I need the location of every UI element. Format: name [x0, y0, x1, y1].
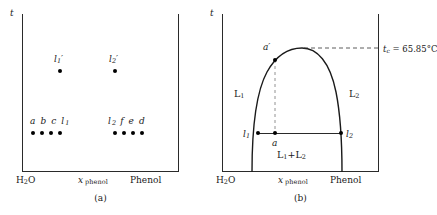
- t-axis-label-a: t: [10, 8, 14, 18]
- label-a-b: a: [272, 138, 277, 148]
- point-l1-b: [256, 131, 260, 135]
- bottom-axis-a: [22, 171, 179, 172]
- label-l2-b: l2: [346, 129, 353, 140]
- x-axis-left-label-a: H2O: [16, 175, 36, 186]
- point-f: [122, 131, 126, 135]
- point-l2: [113, 131, 117, 135]
- point-l2-b: [339, 131, 343, 135]
- label-right-cluster: l2 f e d: [108, 116, 146, 127]
- x-axis-center-label-a: x phenol: [78, 175, 108, 186]
- x-axis-right-label-a: Phenol: [130, 175, 161, 185]
- x-axis-right-label-b: Phenol: [330, 175, 361, 185]
- point-c: [49, 131, 53, 135]
- left-axis-a: [22, 14, 23, 172]
- tie-line: [258, 133, 341, 134]
- panel-b-caption: (b): [200, 193, 401, 203]
- point-l1-prime: [58, 69, 62, 73]
- region-label-L1: L1: [234, 88, 244, 100]
- panel-b: t a′ l1 a l2: [200, 0, 401, 215]
- t-axis-label-b: t: [210, 8, 214, 18]
- plot-area-a: l1′ l2′ a b c l1 l2 f e d: [22, 14, 179, 172]
- region-label-L2: L2: [349, 88, 359, 100]
- point-b: [40, 131, 44, 135]
- label-l1-b: l1: [243, 129, 250, 140]
- region-label-L1-L2: L1+L2: [277, 149, 306, 161]
- panel-a: t l1′ l2′ a b c l1 l2 f e d H2O x phenol: [0, 0, 201, 215]
- label-l2-prime: l2′: [109, 54, 118, 65]
- label-l1-prime: l1′: [54, 54, 63, 65]
- point-d: [140, 131, 144, 135]
- right-axis-a: [178, 14, 179, 172]
- point-a: [31, 131, 35, 135]
- label-left-cluster: a b c l1: [30, 116, 71, 127]
- plot-area-b: a′ l1 a l2 L1 L2 L1+L2: [222, 14, 379, 172]
- point-a-b: [273, 131, 277, 135]
- point-e: [131, 131, 135, 135]
- panel-a-caption: (a): [0, 193, 201, 203]
- label-a-prime: a′: [263, 42, 270, 52]
- critical-temperature-label: tc = 65.85°C: [383, 44, 437, 54]
- x-axis-left-label-b: H2O: [216, 175, 236, 186]
- point-l1: [58, 131, 62, 135]
- point-a-prime: [273, 58, 277, 62]
- x-axis-center-label-b: x phenol: [278, 175, 308, 186]
- point-l2-prime: [113, 69, 117, 73]
